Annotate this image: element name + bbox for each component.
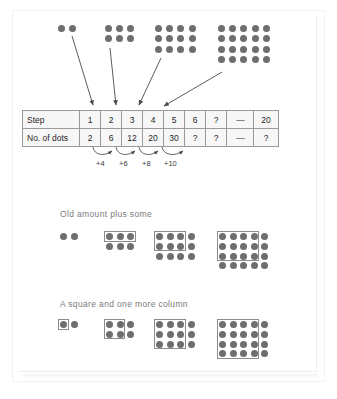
dot bbox=[177, 35, 184, 42]
dot bbox=[261, 233, 268, 240]
dot bbox=[229, 35, 236, 42]
dot bbox=[188, 331, 195, 338]
dot bbox=[127, 331, 134, 338]
dot bbox=[263, 46, 270, 53]
dot bbox=[127, 35, 134, 42]
cell-step-3: 3 bbox=[122, 111, 143, 129]
cell-step-5: 5 bbox=[164, 111, 185, 129]
dot bbox=[166, 35, 173, 42]
dot bbox=[252, 25, 259, 32]
cell-dots-unknown: ? bbox=[206, 129, 227, 147]
dot bbox=[127, 25, 134, 32]
dot bbox=[71, 233, 78, 240]
cell-step-ellipsis: — bbox=[227, 111, 254, 129]
increment-label-plus-10: +10 bbox=[164, 159, 177, 168]
dot bbox=[261, 321, 268, 328]
cell-dots-1: 2 bbox=[80, 129, 101, 147]
dot bbox=[116, 35, 123, 42]
old-amount-figure-4 bbox=[219, 233, 268, 269]
step-3-dot-array bbox=[155, 25, 196, 53]
dot bbox=[252, 46, 259, 53]
old-amount-figure-2 bbox=[106, 233, 134, 250]
dot bbox=[177, 46, 184, 53]
dot bbox=[117, 243, 124, 250]
cell-dots-5: 30 bbox=[164, 129, 185, 147]
table-row-step: Step 1 2 3 4 5 6 ? — 20 bbox=[23, 111, 279, 129]
cell-step-1: 1 bbox=[80, 111, 101, 129]
square-plus-column-figure-2 bbox=[106, 321, 134, 338]
dot bbox=[177, 253, 184, 260]
dot bbox=[189, 25, 196, 32]
cell-step-unknown: ? bbox=[206, 111, 227, 129]
section-heading-old-amount-plus-some: Old amount plus some bbox=[60, 209, 152, 219]
square-plus-column-figure-4 bbox=[219, 321, 268, 357]
square-plus-column-figure-3 bbox=[156, 321, 195, 348]
table-row-dots: No. of dots 2 6 12 20 30 ? ? — ? bbox=[23, 129, 279, 147]
dot bbox=[166, 25, 173, 32]
dot bbox=[155, 46, 162, 53]
dot bbox=[189, 35, 196, 42]
dot bbox=[261, 262, 268, 269]
old-amount-figure-3 bbox=[156, 233, 195, 260]
dot bbox=[240, 56, 247, 63]
dot bbox=[229, 25, 236, 32]
dot bbox=[58, 25, 65, 32]
dot bbox=[218, 56, 225, 63]
worksheet-page: Step 1 2 3 4 5 6 ? — 20 No. of dots 2 6 … bbox=[0, 0, 337, 399]
cell-dots-6: ? bbox=[185, 129, 206, 147]
dot bbox=[127, 321, 134, 328]
dot bbox=[188, 253, 195, 260]
cell-dots-4: 20 bbox=[143, 129, 164, 147]
dot bbox=[263, 35, 270, 42]
dot bbox=[261, 243, 268, 250]
dot bbox=[218, 25, 225, 32]
increment-label-plus-6: +6 bbox=[119, 159, 128, 168]
dot bbox=[116, 25, 123, 32]
dot bbox=[230, 262, 237, 269]
step-4-dot-array bbox=[218, 25, 270, 63]
dot bbox=[240, 46, 247, 53]
highlight-box bbox=[154, 231, 185, 251]
dot bbox=[261, 341, 268, 348]
highlight-box bbox=[104, 231, 135, 241]
highlight-box bbox=[217, 231, 259, 261]
cell-step-2: 2 bbox=[101, 111, 122, 129]
dot bbox=[155, 25, 162, 32]
dot bbox=[106, 243, 113, 250]
increment-label-plus-4: +4 bbox=[96, 159, 105, 168]
row-label-step: Step bbox=[23, 111, 80, 129]
dot bbox=[156, 253, 163, 260]
step-2-dot-array bbox=[105, 25, 134, 42]
highlight-box bbox=[104, 319, 125, 339]
dot bbox=[188, 233, 195, 240]
cell-step-20: 20 bbox=[254, 111, 279, 129]
dot bbox=[155, 35, 162, 42]
cell-step-6: 6 bbox=[185, 111, 206, 129]
dot bbox=[105, 25, 112, 32]
dot bbox=[189, 46, 196, 53]
dot bbox=[251, 262, 258, 269]
dot bbox=[240, 262, 247, 269]
dot bbox=[261, 350, 268, 357]
cell-dots-ellipsis: — bbox=[227, 129, 254, 147]
dot bbox=[69, 25, 76, 32]
dot bbox=[218, 46, 225, 53]
dot bbox=[218, 35, 225, 42]
highlight-box bbox=[58, 319, 68, 329]
old-amount-figure-1 bbox=[60, 233, 78, 240]
dot bbox=[240, 25, 247, 32]
step-1-dot-array bbox=[58, 25, 76, 32]
dot bbox=[263, 25, 270, 32]
dot bbox=[167, 253, 174, 260]
dot bbox=[261, 331, 268, 338]
dot bbox=[252, 56, 259, 63]
dot bbox=[261, 253, 268, 260]
dot bbox=[229, 56, 236, 63]
dot bbox=[188, 321, 195, 328]
dot bbox=[166, 46, 173, 53]
cell-dots-3: 12 bbox=[122, 129, 143, 147]
dot bbox=[263, 56, 270, 63]
cell-dots-2: 6 bbox=[101, 129, 122, 147]
dot bbox=[188, 243, 195, 250]
dot bbox=[127, 243, 134, 250]
